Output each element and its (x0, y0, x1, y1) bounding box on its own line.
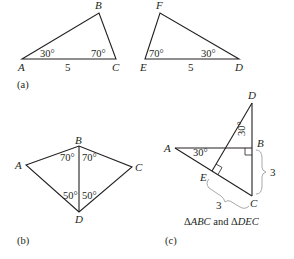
vertex-label-a: A (163, 142, 171, 154)
angle-label-d: 30° (201, 48, 216, 59)
subtitle-triangle-dec: DEC (237, 216, 260, 227)
vertex-label-c: C (135, 161, 143, 173)
angle-label-a: 30° (40, 48, 55, 59)
panel-c-subtitle: ΔABC and ΔDEC (184, 216, 260, 227)
triangle-abc: A B C 30° 70° 5 (17, 0, 120, 73)
subtitle-triangle-abc: ABC (190, 216, 212, 227)
right-angle-marker-b (245, 148, 252, 155)
angle-label-d: 30° (236, 121, 247, 136)
vertex-label-e: E (139, 61, 147, 73)
brace-label-ec: 3 (216, 199, 222, 211)
angle-label-a: 30° (193, 147, 208, 158)
angle-label-e: 70° (149, 48, 164, 59)
side-label-ed: 5 (188, 61, 194, 73)
vertex-label-a: A (14, 159, 22, 171)
vertex-label-b: B (75, 134, 82, 146)
brace-bc (256, 150, 266, 194)
figure-svg: A B C 30° 70° 5 E F D 70° 30° 5 (a) A B … (0, 0, 294, 259)
geometry-figure: A B C 30° 70° 5 E F D 70° 30° 5 (a) A B … (0, 0, 294, 259)
segment-de (212, 103, 252, 171)
panel-b: A B C D 70° 70° 50° 50° (b) (14, 134, 143, 247)
vertex-label-d: D (234, 61, 243, 73)
vertex-label-f: F (155, 0, 163, 11)
segment-ac (175, 148, 252, 196)
vertex-label-e: E (199, 171, 207, 183)
caption-a: (a) (17, 79, 29, 91)
angle-label-adb: 50° (63, 190, 78, 201)
vertex-label-d: D (74, 213, 83, 225)
angle-label-abd: 70° (60, 152, 75, 163)
caption-c: (c) (165, 235, 177, 247)
vertex-label-d: D (247, 89, 256, 101)
brace-ec (207, 179, 249, 208)
panel-c: A B C D E 30° 30° 3 3 ΔABC and ΔDEC (c) (163, 89, 276, 247)
side-label-ac: 5 (65, 61, 71, 73)
caption-b: (b) (17, 235, 30, 247)
angle-label-c: 70° (91, 48, 106, 59)
angle-label-cdb: 50° (82, 190, 97, 201)
panel-a: A B C 30° 70° 5 E F D 70° 30° 5 (a) (17, 0, 243, 91)
angle-label-cbd: 70° (82, 152, 97, 163)
vertex-label-b: B (95, 0, 102, 11)
vertex-label-c: C (112, 61, 120, 73)
triangle-def: E F D 70° 30° 5 (139, 0, 243, 73)
subtitle-and-delta: and Δ (211, 216, 238, 227)
brace-label-bc: 3 (270, 166, 276, 178)
vertex-label-c: C (250, 197, 258, 209)
vertex-label-b: B (257, 137, 264, 149)
right-angle-marker-e (216, 164, 222, 175)
vertex-label-a: A (17, 61, 25, 73)
